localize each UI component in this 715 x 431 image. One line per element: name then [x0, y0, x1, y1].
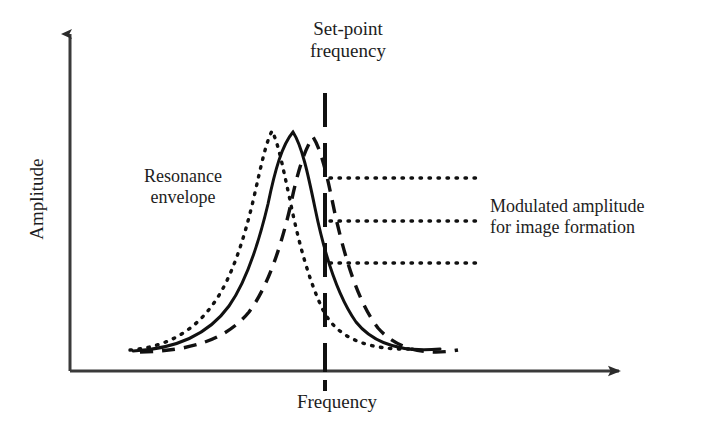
x-axis-label: Frequency	[262, 391, 412, 413]
resonance-envelope-label-line2: envelope	[108, 187, 258, 208]
setpoint-frequency-label-line2: frequency	[268, 40, 428, 62]
y-axis-label: Amplitude	[26, 129, 48, 269]
modulated-amplitude-label: Modulated amplitude for image formation	[490, 196, 710, 238]
setpoint-frequency-label: Set-point frequency	[268, 18, 428, 63]
resonance-envelope-label: Resonance envelope	[108, 166, 258, 208]
modulated-amplitude-label-line1: Modulated amplitude	[490, 196, 710, 217]
setpoint-frequency-label-line1: Set-point	[268, 18, 428, 40]
resonance-envelope-label-line1: Resonance	[108, 166, 258, 187]
curve-solid-centre	[133, 132, 440, 351]
figure-canvas: Set-point frequency Resonance envelope M…	[0, 0, 715, 431]
modulated-amplitude-label-line2: for image formation	[490, 217, 710, 238]
